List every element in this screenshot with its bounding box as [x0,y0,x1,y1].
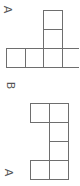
figure-label-3: A [3,169,14,177]
net-square [43,29,63,49]
net-square [49,122,69,142]
net-square [43,48,63,68]
net-square [49,141,69,161]
net-square [6,48,26,68]
net-square [25,48,45,68]
net-square [43,10,63,30]
figure-label-2: B [5,82,16,90]
figure-label-1: A [2,6,13,14]
net-square [30,103,50,123]
net-square [49,160,69,180]
net-square [62,48,80,68]
net-square [30,160,50,180]
net-square [49,103,69,123]
